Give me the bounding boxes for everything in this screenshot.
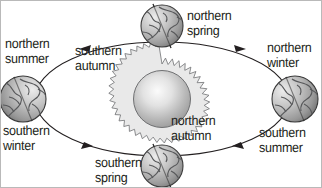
earth-globe-top [141,4,184,48]
label-northern-autumn: northern autumn [171,114,216,143]
label-northern-summer: northern summer [5,37,50,66]
label-southern-spring: southern spring [95,156,142,185]
seasons-orbit-diagram: northern summer southern winter northern… [0,0,322,188]
earth-globe-bottom [141,144,184,188]
earth-globe-right [272,76,318,122]
label-northern-winter: northern winter [267,41,312,70]
diagram-canvas [1,1,322,188]
orbit-arrow-top-right [234,45,246,52]
earth-globe-left [1,76,46,122]
label-southern-winter: southern winter [3,124,50,153]
label-southern-summer: southern summer [259,126,306,155]
label-northern-spring: northern spring [187,9,232,38]
label-southern-autumn: southern autumn [75,44,122,73]
